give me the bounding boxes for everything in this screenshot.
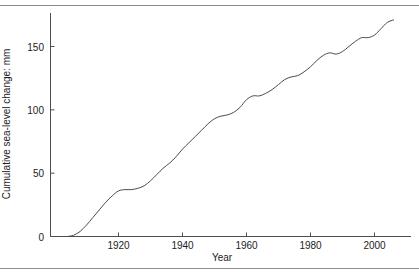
x-axis-title: Year: [212, 252, 232, 263]
x-axis-tick-label: 1980: [299, 240, 321, 251]
x-axis-tick-label: 1940: [171, 240, 193, 251]
y-axis-tick-label: 50: [8, 168, 44, 179]
y-axis-tick-label: 0: [8, 231, 44, 242]
x-axis-tick-label: 2000: [363, 240, 385, 251]
y-axis-title: Cumulative sea-level change: mm: [1, 14, 12, 234]
data-series-line: [67, 20, 393, 237]
figure-container: 050100150 19201940196019802000 Year Cumu…: [0, 0, 419, 276]
y-axis-tick-label: 150: [8, 41, 44, 52]
x-axis-tick-label: 1960: [235, 240, 257, 251]
x-axis-tick-label: 1920: [107, 240, 129, 251]
y-axis-ticks: [51, 47, 55, 237]
y-axis-tick-label: 100: [8, 104, 44, 115]
x-axis-ticks: [119, 233, 375, 237]
line-chart-plot: [0, 0, 419, 276]
